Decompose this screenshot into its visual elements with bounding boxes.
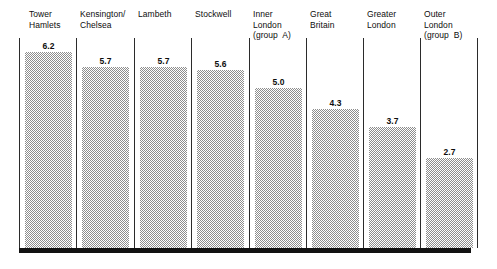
bar-value-label: 6.2 — [25, 41, 72, 51]
column-divider — [420, 38, 421, 248]
bar-value-label: 2.7 — [426, 147, 473, 157]
bar-value-label: 5.7 — [140, 56, 187, 66]
bar — [197, 70, 244, 248]
bar-value-label: 3.7 — [369, 116, 416, 126]
bar-value-label: 5.7 — [82, 56, 129, 66]
bar-chart: Tower Hamlets Kensington/ Chelsea Lambet… — [0, 0, 497, 269]
category-label-2: Lambeth — [138, 9, 171, 20]
column-divider — [76, 38, 77, 248]
category-label-1: Kensington/ Chelsea — [80, 9, 125, 30]
axis-baseline — [19, 248, 471, 253]
column-divider — [363, 38, 364, 248]
bar — [369, 127, 416, 248]
bar — [426, 158, 473, 248]
bar — [255, 88, 302, 248]
bar — [140, 67, 187, 248]
category-label-6: Greater London — [367, 9, 396, 30]
bar — [312, 109, 359, 248]
category-label-3: Stockwell — [195, 9, 231, 20]
column-divider — [477, 38, 478, 248]
category-label-0: Tower Hamlets — [29, 9, 61, 30]
bar-value-label: 4.3 — [312, 98, 359, 108]
bar — [82, 67, 129, 248]
column-divider — [134, 38, 135, 248]
bar — [25, 52, 72, 248]
category-label-7: Outer London (group B) — [424, 9, 462, 41]
column-divider — [306, 38, 307, 248]
bar-value-label: 5.0 — [255, 77, 302, 87]
category-label-4: Inner London (group A) — [253, 9, 291, 41]
column-divider — [249, 38, 250, 248]
category-label-5: Great Britain — [310, 9, 334, 30]
column-divider — [191, 38, 192, 248]
bar-value-label: 5.6 — [197, 59, 244, 69]
column-divider — [19, 38, 20, 248]
